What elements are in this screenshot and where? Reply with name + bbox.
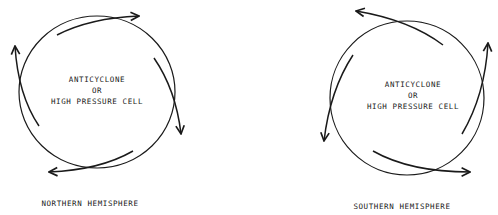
northern-arrow-right <box>154 58 181 134</box>
southern-label-line-3: HIGH PRESSURE CELL <box>363 101 463 112</box>
northern-arrow-bottom <box>49 151 133 172</box>
northern-label-line-3: HIGH PRESSURE CELL <box>47 96 147 107</box>
southern-arrow-left <box>324 55 353 141</box>
northern-arrow-top <box>57 16 139 35</box>
southern-arrow-top <box>356 11 443 45</box>
northern-label-line-2: OR <box>47 85 147 96</box>
southern-center-label: ANTICYCLONE OR HIGH PRESSURE CELL <box>363 79 463 112</box>
northern-center-label: ANTICYCLONE OR HIGH PRESSURE CELL <box>47 74 147 107</box>
northern-caption: NORTHERN HEMISPHERE <box>40 199 140 208</box>
southern-arrow-bottom <box>373 151 470 172</box>
southern-label-line-1: ANTICYCLONE <box>363 79 463 90</box>
southern-caption: SOUTHERN HEMISPHERE <box>352 202 452 211</box>
southern-arrow-right <box>462 43 488 134</box>
southern-label-line-2: OR <box>363 90 463 101</box>
northern-label-line-1: ANTICYCLONE <box>47 74 147 85</box>
